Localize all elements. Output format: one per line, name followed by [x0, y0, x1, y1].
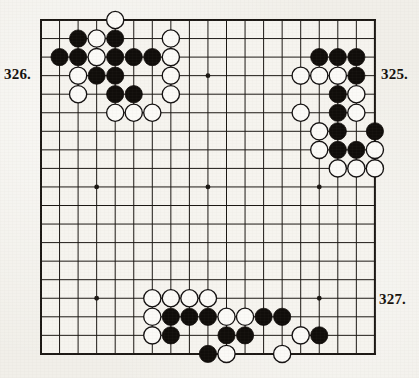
white-stone[interactable]: [329, 160, 346, 177]
star-point: [206, 185, 211, 190]
go-board[interactable]: [0, 0, 419, 378]
white-stone[interactable]: [88, 30, 105, 47]
black-stone[interactable]: [274, 308, 291, 325]
white-stone[interactable]: [311, 67, 328, 84]
white-stone[interactable]: [88, 49, 105, 66]
black-stone[interactable]: [311, 327, 328, 344]
diagram-number-326: 326.: [4, 67, 31, 82]
black-stone[interactable]: [329, 123, 346, 140]
black-stone[interactable]: [125, 49, 142, 66]
diagram-number-325: 325.: [381, 67, 408, 82]
diagram-number-327: 327.: [379, 292, 406, 307]
star-point: [206, 73, 211, 78]
white-stone[interactable]: [236, 308, 253, 325]
star-point: [317, 296, 322, 301]
black-stone[interactable]: [329, 141, 346, 158]
star-point: [94, 185, 99, 190]
black-stone[interactable]: [107, 30, 124, 47]
black-stone[interactable]: [218, 327, 235, 344]
white-stone[interactable]: [162, 49, 179, 66]
black-stone[interactable]: [199, 308, 216, 325]
white-stone[interactable]: [218, 345, 235, 362]
white-stone[interactable]: [144, 290, 161, 307]
black-stone[interactable]: [329, 104, 346, 121]
white-stone[interactable]: [292, 327, 309, 344]
black-stone[interactable]: [311, 49, 328, 66]
black-stone[interactable]: [348, 67, 365, 84]
white-stone[interactable]: [292, 104, 309, 121]
black-stone[interactable]: [348, 141, 365, 158]
star-point: [317, 185, 322, 190]
black-stone[interactable]: [107, 86, 124, 103]
black-stone[interactable]: [144, 49, 161, 66]
white-stone[interactable]: [348, 86, 365, 103]
white-stone[interactable]: [70, 67, 87, 84]
white-stone[interactable]: [292, 67, 309, 84]
black-stone[interactable]: [162, 308, 179, 325]
white-stone[interactable]: [144, 104, 161, 121]
white-stone[interactable]: [329, 67, 346, 84]
black-stone[interactable]: [199, 345, 216, 362]
black-stone[interactable]: [70, 30, 87, 47]
white-stone[interactable]: [218, 308, 235, 325]
star-point: [94, 296, 99, 301]
white-stone[interactable]: [199, 290, 216, 307]
black-stone[interactable]: [329, 86, 346, 103]
black-stone[interactable]: [125, 86, 142, 103]
white-stone[interactable]: [311, 141, 328, 158]
black-stone[interactable]: [51, 49, 68, 66]
white-stone[interactable]: [366, 141, 383, 158]
white-stone[interactable]: [181, 290, 198, 307]
black-stone[interactable]: [181, 308, 198, 325]
white-stone[interactable]: [162, 30, 179, 47]
white-stone[interactable]: [144, 308, 161, 325]
black-stone[interactable]: [107, 67, 124, 84]
white-stone[interactable]: [144, 327, 161, 344]
white-stone[interactable]: [162, 86, 179, 103]
black-stone[interactable]: [70, 49, 87, 66]
white-stone[interactable]: [311, 123, 328, 140]
white-stone[interactable]: [107, 11, 124, 28]
go-board-container: [0, 0, 419, 378]
white-stone[interactable]: [107, 104, 124, 121]
white-stone[interactable]: [162, 290, 179, 307]
black-stone[interactable]: [348, 49, 365, 66]
diagram-page: 326. 325. 327.: [0, 0, 419, 378]
white-stone[interactable]: [348, 160, 365, 177]
white-stone[interactable]: [162, 67, 179, 84]
white-stone[interactable]: [274, 345, 291, 362]
white-stone[interactable]: [70, 86, 87, 103]
black-stone[interactable]: [329, 49, 346, 66]
black-stone[interactable]: [162, 327, 179, 344]
black-stone[interactable]: [366, 123, 383, 140]
black-stone[interactable]: [107, 49, 124, 66]
black-stone[interactable]: [236, 327, 253, 344]
white-stone[interactable]: [125, 104, 142, 121]
black-stone[interactable]: [88, 67, 105, 84]
black-stone[interactable]: [255, 308, 272, 325]
white-stone[interactable]: [366, 160, 383, 177]
white-stone[interactable]: [348, 104, 365, 121]
